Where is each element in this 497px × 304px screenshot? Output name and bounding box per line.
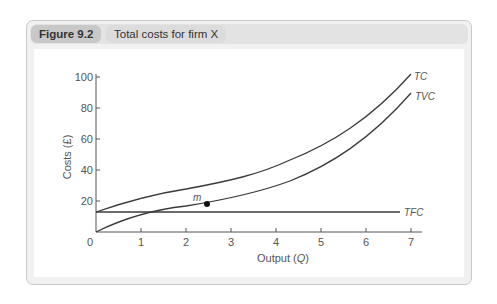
x-tick-7: 7	[408, 236, 414, 248]
point-m	[204, 201, 210, 207]
x-tick-0: 0	[87, 236, 93, 248]
y-tick-60: 60	[81, 133, 93, 145]
x-tick-labels: 0 1 2 3 4 5 6 7	[87, 236, 414, 248]
y-tick-20: 20	[81, 195, 93, 207]
chart-svg: 100 80 60 40 20 Costs (£) 0 1 2 3 4 5 6 …	[0, 0, 497, 304]
tvc-label: TVC	[415, 91, 436, 102]
x-tick-5: 5	[318, 236, 324, 248]
tvc-curve	[96, 93, 411, 232]
point-m-label: m	[193, 192, 201, 203]
y-tick-labels: 100 80 60 40 20	[75, 71, 93, 207]
y-tick-100: 100	[75, 71, 93, 83]
x-tick-1: 1	[138, 236, 144, 248]
tc-label: TC	[414, 71, 428, 82]
x-tick-3: 3	[228, 236, 234, 248]
x-tick-4: 4	[273, 236, 279, 248]
x-ticks	[141, 228, 411, 232]
y-tick-80: 80	[81, 102, 93, 114]
tc-curve	[96, 74, 411, 212]
x-tick-2: 2	[183, 236, 189, 248]
y-tick-40: 40	[81, 164, 93, 176]
x-tick-6: 6	[363, 236, 369, 248]
y-ticks	[96, 77, 100, 201]
tfc-label: TFC	[404, 207, 424, 218]
y-axis-label: Costs (£)	[61, 135, 73, 180]
x-axis-label: Output (Q)	[257, 252, 309, 264]
